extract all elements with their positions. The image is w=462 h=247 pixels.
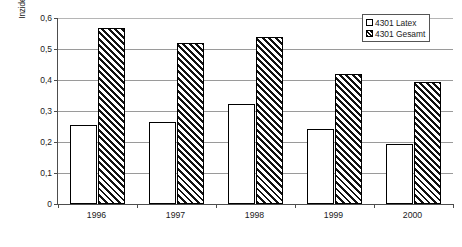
bar-chart: Inzidenz der BK-Verdachtsfälle je 1.000 … bbox=[0, 0, 462, 247]
y-axis-tick-labels: 00,10,20,30,40,50,6 bbox=[30, 18, 52, 204]
chart-legend: 4301 Latex 4301 Gesamt bbox=[362, 14, 430, 42]
x-axis-tick-label: 1999 bbox=[294, 210, 373, 221]
y-axis-tick-label: 0,5 bbox=[30, 45, 52, 54]
x-axis-tick bbox=[374, 204, 375, 208]
bar-4301-gesamt-1998 bbox=[256, 37, 283, 204]
legend-item-label: 4301 Gesamt bbox=[375, 29, 425, 39]
legend-item-label: 4301 Latex bbox=[375, 18, 416, 28]
y-axis-tick-label: 0,6 bbox=[30, 14, 52, 23]
y-axis-tick-label: 0,1 bbox=[30, 169, 52, 178]
bars bbox=[58, 18, 453, 204]
legend-item-gesamt: 4301 Gesamt bbox=[366, 28, 425, 39]
x-axis-tick-label: 1996 bbox=[57, 210, 136, 221]
y-axis-tick-label: 0 bbox=[30, 200, 52, 209]
bar-4301-latex-1999 bbox=[307, 129, 334, 204]
y-axis-tick-label: 0,2 bbox=[30, 138, 52, 147]
x-axis-tick-label: 2000 bbox=[373, 210, 452, 221]
x-axis-tick bbox=[58, 204, 59, 208]
y-axis-tick-label: 0,3 bbox=[30, 107, 52, 116]
x-axis-tick bbox=[295, 204, 296, 208]
bar-4301-gesamt-2000 bbox=[414, 82, 441, 204]
bar-4301-gesamt-1997 bbox=[177, 43, 204, 204]
y-axis-title-text: Inzidenz der BK-Verdachtsfälle je 1.000 … bbox=[18, 0, 27, 28]
bar-4301-latex-2000 bbox=[386, 144, 413, 204]
x-axis-tick-label: 1997 bbox=[136, 210, 215, 221]
bar-4301-gesamt-1999 bbox=[335, 74, 362, 204]
hatched-swatch-icon bbox=[366, 30, 373, 37]
x-axis-tick bbox=[453, 204, 454, 208]
x-axis-tick-label: 1998 bbox=[215, 210, 294, 221]
bar-4301-latex-1996 bbox=[70, 125, 97, 204]
bar-4301-latex-1998 bbox=[228, 104, 255, 204]
x-axis-tick bbox=[216, 204, 217, 208]
dotted-swatch-icon bbox=[366, 19, 373, 26]
y-axis-tick-label: 0,4 bbox=[30, 76, 52, 85]
legend-item-latex: 4301 Latex bbox=[366, 17, 425, 28]
plot-area bbox=[57, 18, 453, 205]
bar-4301-gesamt-1996 bbox=[98, 28, 125, 204]
x-axis-tick-labels: 19961997199819992000 bbox=[57, 210, 452, 224]
x-axis-tick bbox=[137, 204, 138, 208]
bar-4301-latex-1997 bbox=[149, 122, 176, 204]
